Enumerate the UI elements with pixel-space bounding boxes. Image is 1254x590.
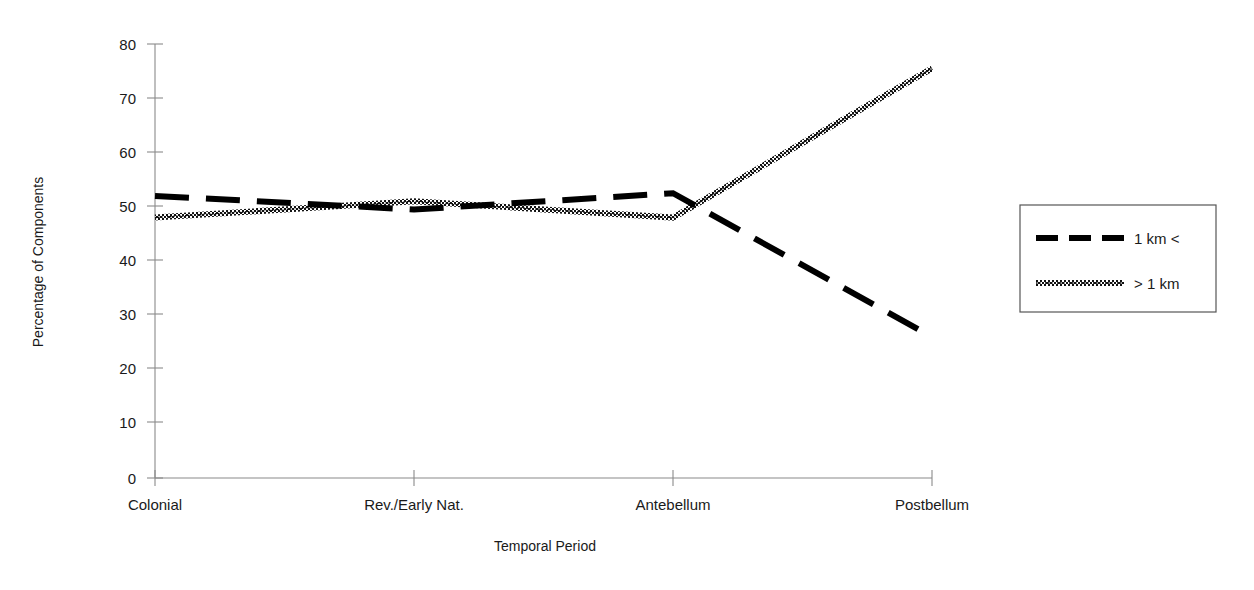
y-tick-label-0: 0 <box>128 470 136 487</box>
plot-series-group <box>155 68 932 337</box>
legend-box <box>1020 205 1216 312</box>
x-axis: Colonial Rev./Early Nat. Antebellum Post… <box>128 470 969 554</box>
series-line-gt-1km-core <box>155 68 932 217</box>
series-line-gt-1km <box>155 68 932 217</box>
y-axis: 80 70 60 50 40 30 20 10 0 Percentage of … <box>30 36 163 487</box>
line-chart-canvas: 80 70 60 50 40 30 20 10 0 Percentage of … <box>0 0 1254 590</box>
y-tick-label-20: 20 <box>119 360 136 377</box>
y-tick-label-70: 70 <box>119 90 136 107</box>
chart-figure: 80 70 60 50 40 30 20 10 0 Percentage of … <box>0 0 1254 590</box>
y-tick-label-80: 80 <box>119 36 136 53</box>
y-tick-label-10: 10 <box>119 414 136 431</box>
y-tick-label-50: 50 <box>119 198 136 215</box>
y-tick-label-60: 60 <box>119 144 136 161</box>
y-tick-label-30: 30 <box>119 306 136 323</box>
series-line-lt-1km <box>155 193 932 337</box>
x-label-colonial: Colonial <box>128 496 182 513</box>
x-label-rev-early-nat: Rev./Early Nat. <box>364 496 464 513</box>
y-tick-label-40: 40 <box>119 252 136 269</box>
x-label-postbellum: Postbellum <box>895 496 969 513</box>
x-axis-title: Temporal Period <box>494 538 596 554</box>
chart-legend: 1 km < > 1 km <box>1020 205 1216 312</box>
x-label-antebellum: Antebellum <box>635 496 710 513</box>
legend-label-gt-1km: > 1 km <box>1134 275 1179 292</box>
y-axis-tick-labels: 80 70 60 50 40 30 20 10 0 <box>119 36 136 487</box>
y-axis-title: Percentage of Components <box>30 177 46 347</box>
legend-label-lt-1km: 1 km < <box>1134 230 1180 247</box>
x-axis-category-labels: Colonial Rev./Early Nat. Antebellum Post… <box>128 496 969 513</box>
